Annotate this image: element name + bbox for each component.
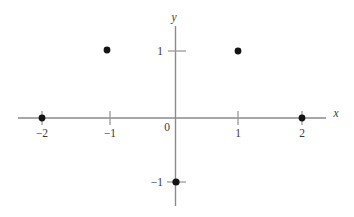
data-point	[172, 178, 179, 185]
data-point	[104, 47, 111, 54]
y-axis-label: y	[170, 11, 177, 24]
coordinate-plane-figure: −2 −1 1 2 1 −1 0 x y	[0, 0, 354, 217]
origin-label: 0	[164, 121, 170, 133]
scatter-plot-canvas: −2 −1 1 2 1 −1 0 x y	[0, 0, 354, 217]
data-point	[299, 115, 306, 122]
y-tick-label-neg1: −1	[151, 176, 163, 188]
y-tick-label-pos1: 1	[157, 45, 163, 57]
data-point	[39, 115, 46, 122]
x-tick-label-pos2: 2	[299, 127, 305, 139]
x-tick-label-pos1: 1	[235, 127, 241, 139]
data-point	[235, 48, 242, 55]
x-axis-label: x	[332, 107, 339, 119]
x-tick-label-neg2: −2	[36, 127, 48, 139]
x-tick-label-neg1: −1	[104, 127, 116, 139]
